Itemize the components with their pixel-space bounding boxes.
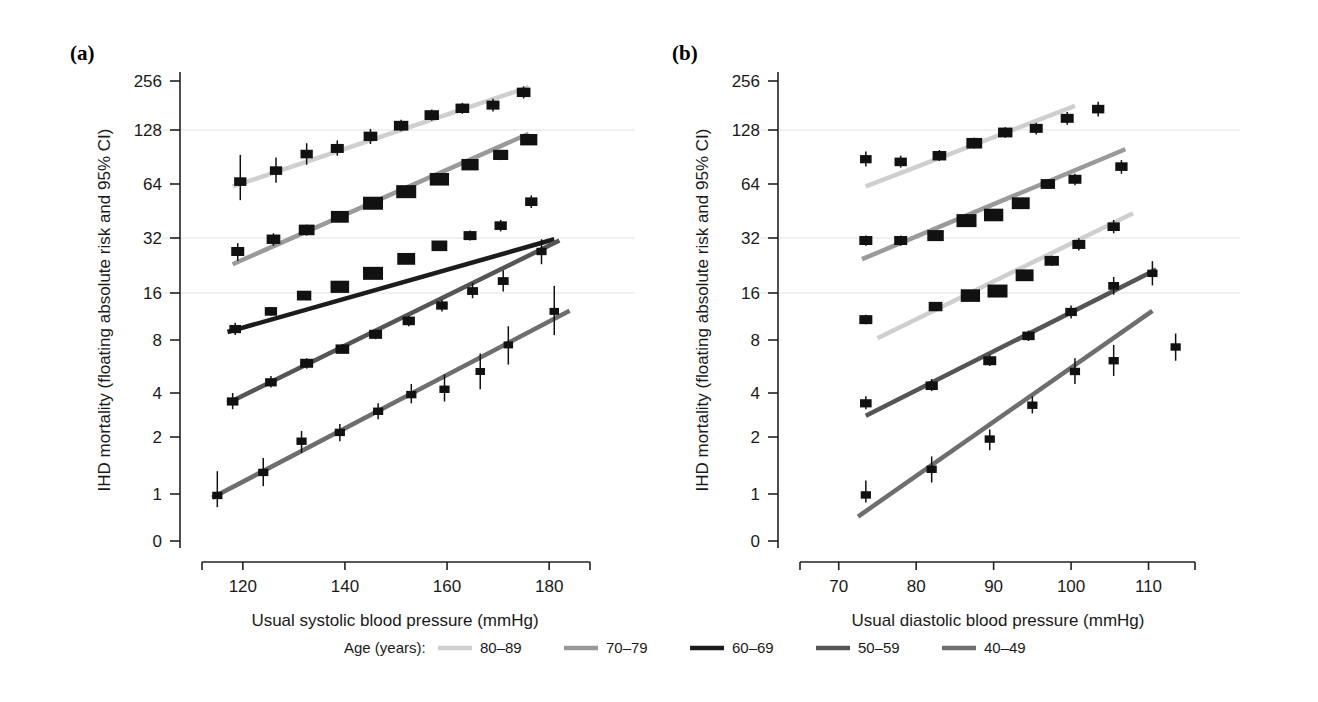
data-point-marker: [859, 315, 872, 324]
data-point-marker: [425, 110, 439, 120]
y-tick-label: 64: [741, 175, 760, 194]
data-point-marker: [431, 241, 447, 252]
data-point-marker: [1065, 308, 1077, 316]
data-point-marker: [231, 247, 244, 256]
data-point-marker: [296, 438, 306, 445]
panel-label: (b): [672, 41, 698, 65]
data-point-marker: [363, 197, 383, 210]
data-point-marker: [1115, 162, 1127, 171]
data-point-marker: [1147, 270, 1157, 277]
data-point-marker: [331, 211, 349, 223]
data-point-marker: [517, 88, 531, 97]
data-point-marker: [861, 491, 871, 498]
data-point-marker: [1171, 343, 1181, 350]
y-tick-label: 0: [751, 532, 760, 551]
data-point-marker: [475, 368, 485, 375]
data-point-marker: [1108, 222, 1120, 231]
y-tick-label: 2: [153, 428, 162, 447]
data-point-marker: [1070, 368, 1080, 375]
data-point-marker: [461, 159, 478, 170]
data-point-marker: [1041, 179, 1055, 189]
data-point-marker: [966, 138, 982, 149]
data-point-marker: [1030, 124, 1043, 133]
legend-label-3: 60–69: [732, 639, 774, 656]
x-tick-label: 70: [829, 577, 848, 596]
y-tick-label: 0: [153, 532, 162, 551]
data-point-marker: [363, 267, 383, 280]
panel-b: (b)01248163264128256708090100110Usual di…: [672, 41, 1240, 630]
data-point-marker: [430, 173, 449, 186]
trend-line: [877, 213, 1133, 338]
data-point-marker: [988, 285, 1008, 298]
legend-label-1: 80–89: [480, 639, 522, 656]
data-point-marker: [1061, 114, 1074, 123]
panel-label: (a): [70, 41, 95, 65]
y-axis-title: IHD mortality (floating absolute risk an…: [693, 129, 712, 492]
legend-label-2: 70–79: [606, 639, 648, 656]
data-point-marker: [212, 492, 222, 499]
data-point-marker: [1016, 269, 1034, 281]
x-tick-label: 100: [1057, 577, 1085, 596]
data-point-marker: [331, 144, 344, 153]
data-point-marker: [984, 209, 1003, 222]
data-point-marker: [504, 341, 514, 348]
data-point-marker: [456, 104, 470, 113]
series-70-79: [231, 134, 537, 264]
data-point-marker: [493, 150, 508, 160]
data-point-marker: [520, 134, 537, 145]
data-point-marker: [961, 289, 980, 302]
data-point-marker: [373, 408, 383, 415]
panel-a: (a)01248163264128256120140160180Usual sy…: [70, 41, 635, 630]
data-point-marker: [894, 236, 907, 245]
y-tick-label: 32: [143, 229, 162, 248]
data-point-marker: [860, 155, 872, 163]
series-40-49: [858, 311, 1181, 517]
y-tick-label: 1: [153, 485, 162, 504]
x-tick-label: 80: [907, 577, 926, 596]
data-point-marker: [270, 166, 282, 175]
data-point-marker: [467, 287, 478, 295]
y-tick-label: 8: [751, 331, 760, 350]
y-tick-label: 4: [751, 384, 760, 403]
data-point-marker: [1109, 357, 1119, 364]
y-tick-label: 2: [751, 428, 760, 447]
data-point-marker: [1045, 256, 1059, 266]
x-tick-label: 140: [331, 577, 359, 596]
data-point-marker: [487, 101, 500, 110]
trend-line: [228, 241, 560, 404]
data-point-marker: [1012, 197, 1030, 209]
data-point-marker: [1027, 402, 1037, 409]
data-point-marker: [258, 469, 268, 476]
data-point-marker: [299, 225, 315, 236]
data-point-marker: [859, 236, 872, 245]
data-point-marker: [403, 317, 415, 326]
data-point-marker: [265, 307, 277, 316]
data-point-marker: [227, 397, 239, 405]
trend-line: [866, 270, 1156, 416]
data-point-marker: [369, 330, 382, 339]
x-axis-title: Usual diastolic blood pressure (mmHg): [852, 611, 1145, 630]
data-point-marker: [498, 277, 509, 285]
series-60-69: [859, 213, 1133, 338]
x-axis-title: Usual systolic blood pressure (mmHg): [251, 611, 538, 630]
data-point-marker: [406, 391, 416, 398]
data-point-marker: [229, 325, 241, 333]
x-tick-label: 120: [229, 577, 257, 596]
data-point-marker: [929, 302, 943, 311]
legend: Age (years):80–8970–7960–6950–5940–49: [344, 639, 1026, 656]
data-point-marker: [860, 399, 872, 407]
x-tick-label: 160: [433, 577, 461, 596]
data-point-marker: [998, 128, 1012, 138]
data-point-marker: [436, 301, 448, 309]
data-point-marker: [933, 151, 947, 160]
data-point-marker: [957, 214, 977, 227]
ihd-mortality-figure: (a)01248163264128256120140160180Usual sy…: [0, 0, 1318, 702]
data-point-marker: [396, 185, 416, 198]
x-tick-label: 110: [1135, 577, 1162, 596]
data-point-marker: [300, 359, 313, 368]
trend-line: [858, 311, 1152, 517]
data-point-marker: [926, 381, 938, 390]
y-tick-label: 64: [143, 175, 162, 194]
data-point-marker: [335, 429, 345, 436]
data-point-marker: [464, 231, 477, 240]
